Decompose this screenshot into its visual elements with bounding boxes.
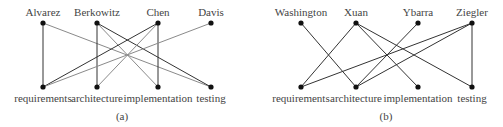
graph-b-node-architecture	[353, 84, 358, 89]
graph-b-node-washington	[298, 20, 303, 25]
graph-a-edge-chen-to-requirements	[43, 23, 158, 87]
graph-a-node-testing	[208, 84, 213, 89]
graph-a-node-chen	[155, 20, 160, 25]
graph-a-label-requirements: requirements	[14, 92, 71, 104]
graph-a-node-davis	[208, 20, 213, 25]
graph-b-label-architecture: architecture	[330, 92, 382, 104]
graph-b-node-xuan	[353, 20, 358, 25]
graph-a-node-architecture	[94, 84, 99, 89]
graph-b-edge-ziegler-to-requirements	[301, 23, 472, 87]
graph-b-label-ziegler: Ziegler	[456, 6, 488, 18]
graph-a-label-alvarez: Alvarez	[26, 6, 61, 18]
graph-a-node-implementation	[155, 84, 160, 89]
graph-a-label-implementation: implementation	[123, 92, 193, 104]
graph-a-node-requirements	[40, 84, 45, 89]
graph-a-caption: (a)	[116, 110, 129, 123]
edges-layer	[43, 23, 472, 87]
graph-a-node-alvarez	[40, 20, 45, 25]
graph-a-label-davis: Davis	[198, 6, 224, 18]
graph-b-label-testing: testing	[457, 92, 487, 104]
graph-a-label-architecture: architecture	[71, 92, 123, 104]
graph-b-label-washington: Washington	[275, 6, 328, 18]
graph-b-node-implementation	[415, 84, 420, 89]
graph-b-node-requirements	[298, 84, 303, 89]
graph-a-label-testing: testing	[196, 92, 226, 104]
graph-b-node-testing	[469, 84, 474, 89]
graph-b-label-requirements: requirements	[272, 92, 329, 104]
nodes-layer	[40, 20, 474, 89]
graph-b-label-implementation: implementation	[383, 92, 453, 104]
graph-b-label-ybarra: Ybarra	[403, 6, 434, 18]
graph-a-edge-berkowitz-to-testing	[97, 23, 211, 87]
bipartite-graph-figure: AlvarezBerkowitzChenDavisrequirementsarc…	[0, 0, 503, 127]
graph-a-label-berkowitz: Berkowitz	[74, 6, 120, 18]
graph-a-node-berkowitz	[94, 20, 99, 25]
graph-b-node-ybarra	[415, 20, 420, 25]
graph-b-caption: (b)	[380, 110, 393, 123]
graph-a-label-chen: Chen	[146, 6, 170, 18]
graph-b-node-ziegler	[469, 20, 474, 25]
graph-b-label-xuan: Xuan	[344, 6, 368, 18]
